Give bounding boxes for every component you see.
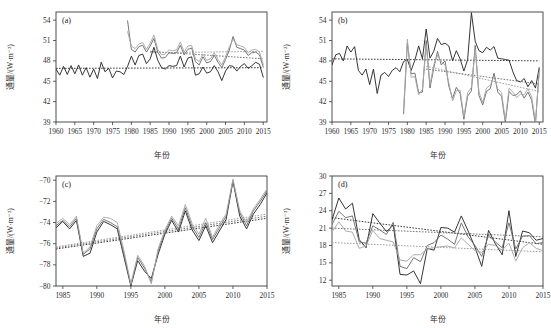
x-axis-title: 年份 [430, 150, 446, 160]
x-tick-label: 2010 [502, 291, 517, 300]
x-tick-label: 2000 [475, 127, 490, 136]
x-tick-label: 2000 [199, 127, 214, 136]
y-tick-label: 54 [43, 16, 51, 25]
y-tick-label: 42 [43, 97, 51, 106]
y-tick-label: 42 [319, 97, 327, 106]
x-tick-label: 2000 [434, 291, 449, 300]
y-tick-label: −70 [39, 176, 51, 185]
y-tick-label: 39 [319, 118, 327, 127]
y-tick-label: 48 [319, 56, 327, 65]
series-line-series-dark [332, 13, 539, 94]
chart-panel-d: 1215182124273019851990199520002005201020… [276, 164, 551, 328]
x-tick-label: 2010 [237, 127, 252, 136]
x-tick-label: 1960 [49, 127, 64, 136]
y-tick-label: −76 [39, 239, 51, 248]
panel-tag: (b) [338, 16, 348, 25]
y-tick-label: −72 [39, 197, 51, 206]
y-tick-label: 30 [319, 172, 327, 181]
x-tick-label: 2005 [468, 291, 483, 300]
x-tick-label: 2005 [192, 291, 207, 300]
x-tick-label: 1985 [143, 127, 158, 136]
x-tick-label: 1995 [180, 127, 195, 136]
trend-line-trend-light [426, 66, 539, 91]
y-tick-label: 15 [319, 258, 327, 267]
y-tick-label: −80 [39, 282, 51, 291]
y-tick-label: 45 [319, 77, 327, 86]
panel-tag: (c) [62, 180, 71, 189]
x-tick-label: 1970 [86, 127, 101, 136]
x-axis-title: 年份 [154, 314, 170, 324]
x-tick-label: 1960 [325, 127, 340, 136]
x-tick-label: 1975 [105, 127, 120, 136]
y-tick-label: 24 [319, 206, 327, 215]
y-tick-label: 27 [319, 189, 327, 198]
y-tick-label: 18 [319, 241, 327, 250]
x-tick-label: 1970 [362, 127, 377, 136]
plot-area-0: 3942454851541960196519701975198019851990… [5, 12, 271, 160]
y-tick-label: 12 [319, 276, 327, 285]
x-tick-label: 1990 [365, 291, 380, 300]
chart-panel-b: 3942454851541960196519701975198019851990… [276, 0, 551, 164]
x-tick-label: 1990 [162, 127, 177, 136]
plot-area-1: 3942454851541960196519701975198019851990… [281, 12, 547, 160]
x-tick-label: 2005 [218, 127, 233, 136]
x-tick-label: 1990 [438, 127, 453, 136]
x-tick-label: 2000 [158, 291, 173, 300]
y-tick-label: 51 [43, 36, 51, 45]
panel-tag: (d) [338, 180, 348, 189]
x-axis-title: 年份 [430, 314, 446, 324]
x-tick-label: 2010 [226, 291, 241, 300]
y-tick-label: 45 [43, 77, 51, 86]
y-axis-title: 通量/(W·m⁻²) [5, 208, 15, 254]
y-tick-label: 51 [319, 36, 327, 45]
x-tick-label: 1980 [124, 127, 139, 136]
trend-line-trend-dark [56, 68, 263, 69]
y-tick-label: 48 [43, 56, 51, 65]
series-line-series-dark [56, 181, 267, 286]
plot-area-2: −80−78−76−74−72−701985199019952000200520… [5, 176, 275, 324]
x-tick-label: 2015 [260, 291, 275, 300]
x-tick-label: 1995 [456, 127, 471, 136]
series-line-series-light [404, 39, 540, 121]
y-tick-label: 21 [319, 224, 327, 233]
chart-panel-c: −80−78−76−74−72−701985199019952000200520… [0, 164, 275, 328]
y-tick-label: −74 [39, 218, 51, 227]
y-tick-label: −78 [39, 260, 51, 269]
series-line-series-mid [128, 21, 264, 68]
y-axis-title: 通量/(W·m⁻²) [5, 44, 15, 90]
x-tick-label: 2005 [494, 127, 509, 136]
plot-area-3: 1215182124273019851990199520002005201020… [281, 172, 551, 324]
x-axis-title: 年份 [154, 150, 170, 160]
chart-panel-a: 3942454851541960196519701975198019851990… [0, 0, 275, 164]
x-tick-label: 1990 [89, 291, 104, 300]
x-tick-label: 2015 [256, 127, 271, 136]
x-tick-label: 1965 [67, 127, 82, 136]
y-axis-title: 通量/(W·m⁻²) [281, 208, 291, 254]
trend-line-trend-mid [426, 69, 539, 84]
x-tick-label: 1985 [331, 291, 346, 300]
figure-container: 3942454851541960196519701975198019851990… [0, 0, 551, 328]
y-axis-title: 通量/(W·m⁻²) [281, 44, 291, 90]
x-tick-label: 1985 [419, 127, 434, 136]
x-tick-label: 2010 [513, 127, 528, 136]
series-line-series-dark [332, 198, 543, 284]
y-tick-label: 54 [319, 16, 327, 25]
x-tick-label: 1980 [400, 127, 415, 136]
panel-tag: (a) [62, 16, 71, 25]
x-tick-label: 2015 [532, 127, 547, 136]
x-tick-label: 1965 [343, 127, 358, 136]
x-tick-label: 2015 [536, 291, 551, 300]
x-tick-label: 1985 [55, 291, 70, 300]
x-tick-label: 1975 [381, 127, 396, 136]
x-tick-label: 1995 [123, 291, 138, 300]
x-tick-label: 1995 [399, 291, 414, 300]
y-tick-label: 39 [43, 118, 51, 127]
